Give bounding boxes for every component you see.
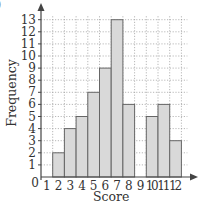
x-tick-label: 1 (43, 179, 51, 193)
y-tick-label: 5 (28, 110, 36, 124)
y-tick-label: 4 (28, 122, 36, 136)
bar-score-3 (64, 129, 76, 177)
bar-score-6 (100, 68, 112, 177)
y-tick-label: 9 (28, 61, 36, 75)
y-tick-label: 8 (28, 73, 36, 87)
y-tick-label: 6 (28, 97, 36, 111)
y-axis-title: Frequency (4, 58, 19, 127)
x-axis-title: Score (93, 189, 129, 204)
y-tick-label: 12 (21, 25, 36, 39)
y-tick-label: 3 (28, 134, 36, 148)
x-tick-label: 2 (55, 179, 63, 193)
y-tick-label: 11 (21, 37, 36, 51)
x-tick-label: 4 (78, 179, 86, 193)
y-tick-label: 1 (28, 158, 36, 172)
bar-score-4 (76, 117, 88, 178)
x-axis-arrow-icon (190, 174, 198, 181)
bar-score-12 (170, 141, 182, 177)
bar-score-10 (146, 117, 158, 178)
bar-score-8 (123, 104, 135, 177)
y-tick-label: 13 (21, 13, 36, 27)
bar-score-5 (88, 92, 100, 177)
x-tick-label: 9 (137, 179, 145, 193)
bar-score-2 (53, 153, 65, 177)
histogram-chart: 123456789101112131234567891011120ScoreFr… (0, 0, 198, 205)
origin-label: 0 (31, 176, 39, 190)
y-tick-label: 2 (28, 146, 36, 160)
x-tick-label: 12 (169, 179, 182, 193)
x-tick-label: 3 (66, 179, 74, 193)
y-tick-label: 10 (21, 49, 36, 63)
y-tick-label: 7 (28, 85, 36, 99)
bar-score-7 (111, 20, 123, 177)
y-axis-arrow-icon (38, 3, 45, 11)
bar-score-11 (158, 104, 170, 177)
